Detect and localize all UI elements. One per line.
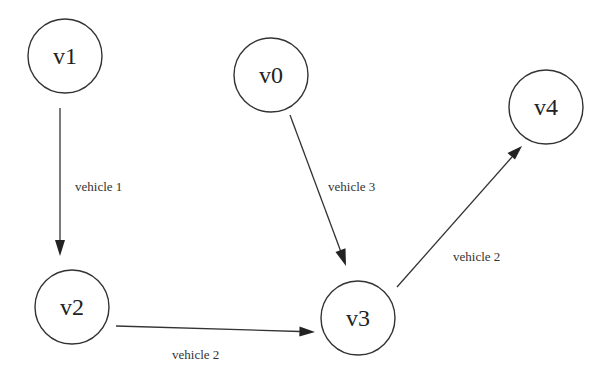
arrowhead-icon xyxy=(299,327,315,337)
edge-label-v3-v4: vehicle 2 xyxy=(453,249,500,264)
node-label: v1 xyxy=(53,43,77,69)
edge-label-v2-v3: vehicle 2 xyxy=(172,347,219,362)
node-label: v2 xyxy=(60,294,84,320)
edge-label-v0-v3: vehicle 3 xyxy=(328,179,375,194)
edge-v1-v2: vehicle 1 xyxy=(55,108,122,256)
node-v2: v2 xyxy=(35,270,109,344)
node-label: v4 xyxy=(534,94,558,120)
edge-v3-v4: vehicle 2 xyxy=(397,146,522,287)
arrowhead-icon xyxy=(336,248,347,266)
node-label: v3 xyxy=(346,305,370,331)
edge-line xyxy=(397,157,512,287)
edge-line xyxy=(116,326,300,332)
arrowhead-icon xyxy=(508,146,523,160)
node-v3: v3 xyxy=(321,281,395,355)
node-v4: v4 xyxy=(509,70,583,144)
edge-v0-v3: vehicle 3 xyxy=(290,115,375,266)
node-v1: v1 xyxy=(28,19,102,93)
node-label: v0 xyxy=(259,62,283,88)
edge-v2-v3: vehicle 2 xyxy=(116,326,315,362)
node-v0: v0 xyxy=(234,38,308,112)
arrowhead-icon xyxy=(55,240,65,256)
edge-label-v1-v2: vehicle 1 xyxy=(75,179,122,194)
graph-diagram: vehicle 1 vehicle 3 vehicle 2 vehicle 2 … xyxy=(0,0,613,379)
